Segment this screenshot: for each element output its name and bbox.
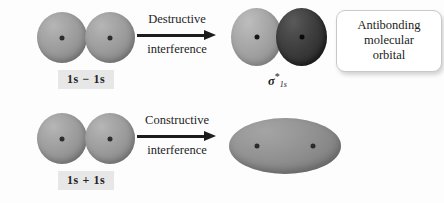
molecular-orbital-bonding [229, 118, 341, 174]
nucleus-dot-icon [299, 35, 304, 40]
arrow-caption-line1: Destructive [136, 12, 218, 27]
nucleus-dot-icon [108, 136, 113, 141]
atomic-orbital-pair-antibonding [37, 12, 135, 64]
orbital-combination-label-difference: 1s − 1s [58, 70, 114, 89]
arrow-caption-line2: interference [136, 143, 218, 158]
arrow-head-icon [204, 131, 216, 141]
orbital-interference-figure: 1s − 1s Destructive interference σ*1s An… [0, 0, 444, 203]
sigma-subscript: 1s [280, 80, 287, 89]
figure-row-antibonding: 1s − 1s Destructive interference σ*1s An… [0, 0, 444, 101]
nucleus-dot-icon [60, 136, 65, 141]
orbital-lobe-positive-phase [231, 8, 282, 66]
atomic-orbital-sphere-right [85, 113, 135, 164]
nucleus-dot-icon [254, 35, 259, 40]
nucleus-dot-icon [108, 35, 113, 40]
callout-line1: Antibonding [341, 18, 437, 33]
atomic-orbital-sphere-left [37, 12, 87, 63]
nucleus-dot-icon [311, 144, 316, 149]
figure-row-bonding: 1s + 1s Constructive interference σ1s Bo… [0, 101, 444, 202]
arrow-head-icon [204, 30, 216, 40]
sigma-glyph: σ [268, 74, 275, 88]
atomic-orbital-pair-bonding [37, 113, 135, 165]
atomic-orbital-sphere-left [37, 113, 87, 164]
callout-antibonding-molecular-orbital: Antibonding molecular orbital [336, 10, 442, 72]
arrow-caption-line2: interference [136, 42, 218, 57]
arrow-caption-line1: Constructive [136, 113, 218, 128]
atomic-orbital-sphere-right [85, 12, 135, 63]
arrow-shaft [137, 34, 205, 37]
orbital-lobe-merged [229, 118, 341, 174]
interference-arrow-constructive: Constructive interference [136, 113, 218, 163]
nucleus-dot-icon [60, 35, 65, 40]
callout-line3: orbital [341, 48, 437, 63]
orbital-lobe-negative-phase [276, 8, 327, 66]
nucleus-dot-icon [255, 144, 260, 149]
callout-line2: molecular [341, 33, 437, 48]
orbital-combination-label-sum: 1s + 1s [58, 171, 114, 190]
sigma-label-antibonding: σ*1s [268, 71, 287, 89]
molecular-orbital-antibonding [231, 8, 327, 66]
arrow-shaft [137, 135, 205, 138]
interference-arrow-destructive: Destructive interference [136, 12, 218, 62]
